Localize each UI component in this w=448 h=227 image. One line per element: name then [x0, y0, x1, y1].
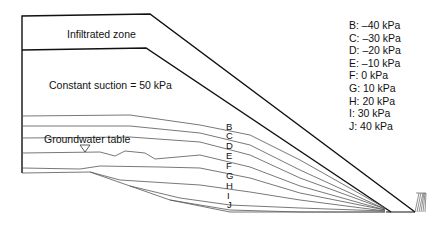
legend-item-h: H: 20 kPa	[349, 95, 401, 108]
groundwater-table-label: Groundwater table	[44, 134, 130, 145]
legend-item-i: I: 30 kPa	[349, 107, 401, 120]
pressure-legend: B: –40 kPa C: –30 kPa D: –20 kPa E: –10 …	[349, 19, 401, 132]
curve-label-j: J	[227, 200, 232, 210]
toe-drain-hatch	[415, 193, 426, 212]
legend-item-f: F: 0 kPa	[349, 69, 401, 82]
pressure-contours	[22, 115, 385, 212]
legend-item-d: D: –20 kPa	[349, 44, 401, 57]
contour-d	[22, 137, 385, 209]
contour-f	[22, 166, 385, 210]
infiltrated-zone-label: Infiltrated zone	[67, 29, 136, 40]
infiltrated-zone-boundary	[22, 48, 391, 212]
legend-item-e: E: –10 kPa	[349, 57, 401, 70]
contour-g	[22, 172, 385, 211]
legend-item-c: C: –30 kPa	[349, 32, 401, 45]
legend-item-j: J: 40 kPa	[349, 120, 401, 133]
groundwater-table-marker-icon	[80, 145, 90, 152]
legend-item-g: G: 10 kPa	[349, 82, 401, 95]
constant-suction-label: Constant suction = 50 kPa	[49, 80, 172, 91]
legend-item-b: B: –40 kPa	[349, 19, 401, 32]
contour-b	[22, 115, 385, 208]
